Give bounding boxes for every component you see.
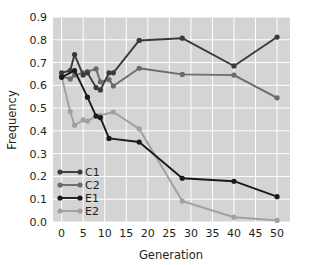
- x-tick-label: 45: [249, 227, 263, 240]
- legend-marker-start-C1: [57, 169, 62, 174]
- data-point-E2: [85, 118, 90, 123]
- y-axis-tick-labels: 0.00.10.20.30.40.50.60.70.80.9: [30, 11, 48, 229]
- y-tick-label: 0.3: [30, 148, 48, 161]
- legend-label-E2: E2: [85, 205, 99, 218]
- data-point-C1: [180, 36, 185, 41]
- data-point-E1: [180, 176, 185, 181]
- legend-marker-end-C2: [77, 182, 82, 187]
- data-point-C1: [274, 34, 279, 39]
- data-point-C2: [98, 79, 103, 84]
- x-axis-tick-labels: 05101520253035404550: [58, 227, 284, 240]
- legend-marker-end-C1: [77, 169, 82, 174]
- data-point-E1: [274, 194, 279, 199]
- legend-marker-end-E2: [77, 208, 82, 213]
- legend-label-C1: C1: [85, 166, 100, 179]
- x-tick-label: 20: [141, 227, 155, 240]
- y-tick-label: 0.6: [30, 79, 48, 92]
- data-point-C1: [98, 87, 103, 92]
- x-tick-label: 35: [205, 227, 219, 240]
- y-tick-label: 0.8: [30, 34, 48, 47]
- data-point-C2: [68, 76, 73, 81]
- y-tick-label: 0.0: [30, 216, 48, 229]
- y-tick-label: 0.7: [30, 57, 48, 70]
- data-point-E1: [106, 136, 111, 141]
- line-chart: 0.00.10.20.30.40.50.60.70.80.9 051015202…: [0, 0, 309, 265]
- data-point-E1: [137, 139, 142, 144]
- y-tick-label: 0.2: [30, 170, 48, 183]
- x-tick-label: 5: [80, 227, 87, 240]
- legend-label-E1: E1: [85, 192, 99, 205]
- data-point-C1: [85, 70, 90, 75]
- data-point-C1: [59, 70, 64, 75]
- x-tick-label: 30: [184, 227, 198, 240]
- legend-label-C2: C2: [85, 179, 100, 192]
- data-point-C1: [137, 38, 142, 43]
- data-point-C1: [231, 63, 236, 68]
- x-tick-label: 40: [227, 227, 241, 240]
- data-point-E1: [98, 115, 103, 120]
- x-tick-label: 15: [119, 227, 133, 240]
- x-tick-label: 0: [58, 227, 65, 240]
- data-point-E1: [72, 68, 77, 73]
- x-tick-label: 50: [270, 227, 284, 240]
- data-point-E2: [274, 218, 279, 223]
- y-tick-label: 0.1: [30, 193, 48, 206]
- data-point-E1: [231, 179, 236, 184]
- legend-marker-start-C2: [57, 182, 62, 187]
- data-point-E1: [85, 95, 90, 100]
- data-point-C1: [72, 52, 77, 57]
- y-tick-label: 0.9: [30, 11, 48, 24]
- chart-figure: 0.00.10.20.30.40.50.60.70.80.9 051015202…: [0, 0, 309, 265]
- data-point-C2: [111, 83, 116, 88]
- data-point-E2: [231, 215, 236, 220]
- legend-marker-start-E1: [57, 195, 62, 200]
- data-point-C2: [231, 72, 236, 77]
- data-point-E2: [137, 126, 142, 131]
- data-point-C1: [111, 70, 116, 75]
- x-tick-label: 10: [98, 227, 112, 240]
- y-axis-title: Frequency: [5, 90, 19, 150]
- data-point-C2: [137, 66, 142, 71]
- data-point-E2: [72, 123, 77, 128]
- y-tick-label: 0.5: [30, 102, 48, 115]
- data-point-E2: [111, 109, 116, 114]
- legend-marker-start-E2: [57, 208, 62, 213]
- data-point-C2: [180, 72, 185, 77]
- data-point-C2: [274, 95, 279, 100]
- x-tick-label: 25: [162, 227, 176, 240]
- x-axis-title: Generation: [139, 248, 203, 262]
- data-point-C2: [93, 66, 98, 71]
- data-point-E2: [180, 198, 185, 203]
- legend-marker-end-E1: [77, 195, 82, 200]
- data-point-E1: [59, 75, 64, 80]
- y-tick-label: 0.4: [30, 125, 48, 138]
- data-point-E2: [68, 109, 73, 114]
